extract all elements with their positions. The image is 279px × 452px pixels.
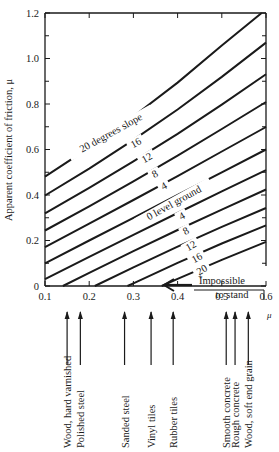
line-labels: 20 degrees slope1612840 level ground4812… xyxy=(66,105,213,279)
slope-line xyxy=(45,170,266,279)
arrow-head-icon xyxy=(224,311,229,319)
impossible-label: Impossible xyxy=(199,275,245,286)
y-tick-label: 0.8 xyxy=(26,99,39,110)
material-arrows: Wood, hard varnishedPolished steelSanded… xyxy=(62,311,254,448)
arrow-head-icon xyxy=(78,311,83,319)
y-axis-label: Apparent coefficient of friction, μ xyxy=(3,79,14,222)
arrow-head-icon xyxy=(149,311,154,319)
line-label: 0 level ground xyxy=(134,178,213,229)
y-tick-label: 0 xyxy=(34,281,39,292)
material-label: Rubber tiles xyxy=(168,397,179,448)
y-tick-label: 0.4 xyxy=(26,190,40,201)
material-label: Rough concrete xyxy=(230,381,241,448)
line-label: 8 xyxy=(178,223,193,238)
x-tick-label: 0.4 xyxy=(171,291,185,302)
x-tick-label: 0.2 xyxy=(83,291,96,302)
line-label: 16 xyxy=(126,134,146,152)
arrow-head-icon xyxy=(122,311,127,319)
line-label: 12 xyxy=(137,149,157,167)
material-label: Vinyl tiles xyxy=(146,405,157,448)
material-arrow: Wood, soft end grain xyxy=(243,311,254,448)
material-arrow: Wood, hard varnished xyxy=(62,311,73,448)
arrow-head-icon xyxy=(233,311,238,319)
x-tick-label: 0.3 xyxy=(127,291,140,302)
x-tick-label: 0.1 xyxy=(38,291,51,302)
x-axis-label: μ xyxy=(266,310,272,320)
material-arrow: Sanded steel xyxy=(120,311,131,448)
y-tick-label: 0.6 xyxy=(26,144,39,155)
to-stand-label: to stand xyxy=(216,289,250,300)
line-label: 8 xyxy=(147,166,162,181)
material-label: Wood, hard varnished xyxy=(62,355,73,448)
material-arrow: Polished steel xyxy=(75,311,86,448)
plus-marker: + xyxy=(198,272,203,281)
y-tick-label: 0.2 xyxy=(26,235,39,246)
line-label: 20 degrees slope xyxy=(66,105,155,161)
material-arrow: Vinyl tiles xyxy=(146,311,157,448)
material-label: Wood, soft end grain xyxy=(243,359,254,448)
friction-chart: 00.20.40.60.81.01.20.10.20.30.40.50.6 20… xyxy=(0,0,279,452)
x-tick-label: 0.6 xyxy=(259,291,272,302)
arrow-head-icon xyxy=(171,311,176,319)
line-label: 4 xyxy=(174,208,189,223)
arrow-head-icon xyxy=(65,311,70,319)
material-arrow: Rubber tiles xyxy=(168,311,179,448)
material-label: Sanded steel xyxy=(120,395,131,448)
material-label: Polished steel xyxy=(75,390,86,448)
y-tick-label: 1.2 xyxy=(26,8,39,19)
arrow-head-icon xyxy=(246,311,251,319)
y-tick-label: 1.0 xyxy=(26,53,39,64)
